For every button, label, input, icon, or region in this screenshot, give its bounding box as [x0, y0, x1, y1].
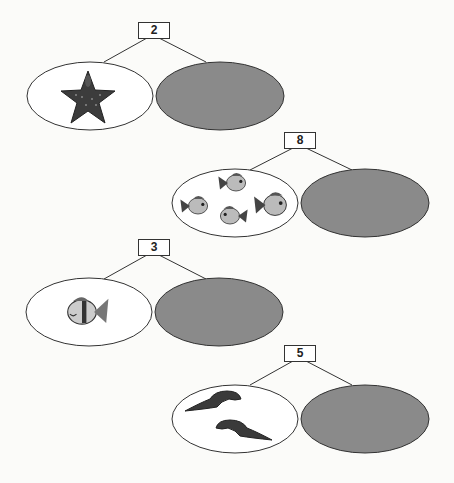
connector-line-left [104, 255, 147, 279]
whole-number-box: 2 [138, 22, 170, 39]
connector-line-left [104, 38, 147, 62]
whole-number-box: 5 [284, 345, 316, 362]
connector-line-right [306, 148, 352, 170]
connector-line-right [159, 38, 206, 62]
number-bond-4 [172, 361, 429, 453]
connector-line-left [250, 148, 293, 170]
connector-line-right [159, 255, 206, 279]
number-bond-3 [26, 255, 283, 346]
whole-number-box: 8 [284, 132, 316, 149]
part-ellipse-right-filled [155, 278, 283, 346]
number-bond-1 [27, 38, 284, 130]
part-ellipse-right-filled [301, 169, 429, 237]
number-bond-2 [172, 148, 429, 237]
connector-line-right [306, 361, 352, 385]
part-ellipse-right-filled [301, 385, 429, 453]
connector-line-left [250, 361, 293, 385]
part-ellipse-right-filled [156, 62, 284, 130]
number-bond-diagram [0, 0, 454, 483]
whole-number-box: 3 [138, 239, 170, 256]
